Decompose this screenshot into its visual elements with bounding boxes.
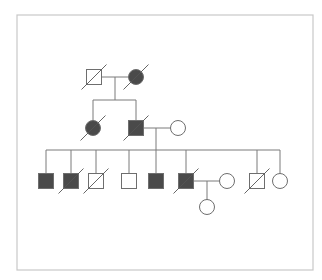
individual-iii-1 xyxy=(39,174,54,189)
unaffected-female-circle-icon xyxy=(200,200,215,215)
pedigree-diagram xyxy=(0,0,322,280)
unaffected-female-circle-icon xyxy=(171,121,186,136)
affected-male-square-icon xyxy=(149,174,164,189)
individual-iv-1 xyxy=(200,200,215,215)
individual-ii-3 xyxy=(171,121,186,136)
unaffected-female-circle-icon xyxy=(220,174,235,189)
unaffected-male-square-icon xyxy=(122,174,137,189)
individual-iii-9 xyxy=(273,174,288,189)
individual-iii-5 xyxy=(149,174,164,189)
individual-iii-7 xyxy=(220,174,235,189)
individual-iii-4 xyxy=(122,174,137,189)
unaffected-female-circle-icon xyxy=(273,174,288,189)
diagram-border xyxy=(17,15,313,270)
affected-male-square-icon xyxy=(39,174,54,189)
